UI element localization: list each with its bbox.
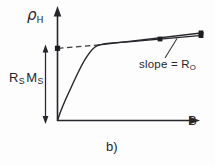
bracket-arrowhead-top — [43, 45, 49, 53]
figure-caption: b) — [106, 140, 118, 153]
hall-resistivity-figure: ρH RS MS B slope = RO b) — [0, 0, 215, 165]
slope-annotation: slope = RO — [139, 59, 196, 71]
bracket-arrowhead-bottom — [43, 116, 49, 124]
y-axis-arrowhead — [54, 6, 62, 17]
data-point-marker-1 — [158, 37, 163, 42]
y-intercept-marker — [55, 46, 60, 51]
data-point-markers — [55, 31, 204, 51]
x-axis-label: B — [188, 114, 197, 127]
rs-ms-label: RS MS — [9, 71, 44, 84]
ordinary-hall-tangent-line — [100, 33, 204, 45]
hall-resistivity-curve — [58, 35, 203, 120]
slope-leader-line — [165, 39, 177, 59]
data-point-marker-3 — [199, 31, 204, 36]
y-axis-label: ρH — [27, 8, 44, 23]
